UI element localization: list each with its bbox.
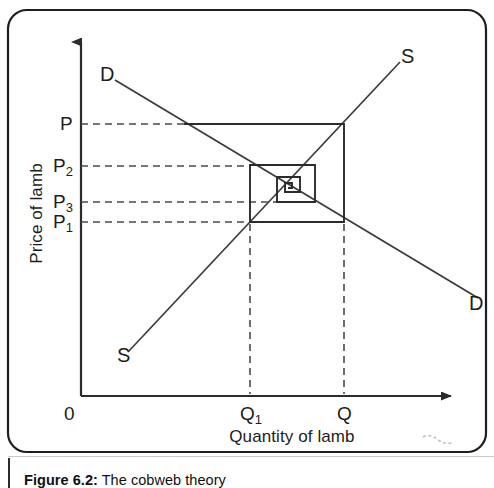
price-guide-lines [81, 124, 278, 222]
origin-label: 0 [64, 404, 75, 423]
y-tick-sub-P1: 1 [66, 220, 73, 235]
x-tick-base-Q: Q [337, 403, 352, 424]
y-axis-title: Price of lamb [28, 139, 45, 289]
curve-label-supply-upper: S [401, 46, 414, 66]
y-tick-label-P2: P2 [53, 156, 73, 175]
x-tick-sub-Q1: 1 [255, 412, 262, 427]
y-tick-label-P1: P1 [53, 212, 73, 231]
x-tick-label-Q1: Q1 [240, 404, 262, 423]
y-tick-label-P: P [60, 114, 73, 133]
caption-divider [8, 456, 494, 457]
x-tick-base-Q1: Q [240, 403, 255, 424]
y-tick-sub-P2: 2 [66, 164, 73, 179]
figure-caption-text: The cobweb theory [98, 472, 226, 488]
figure-container: Price of lamb Quantity of lamb 0 P P2 P3… [0, 0, 494, 488]
supply-curve [128, 62, 400, 352]
y-tick-base-P2: P [53, 155, 66, 176]
x-axis-title: Quantity of lamb [142, 428, 442, 445]
y-tick-base-P3: P [53, 191, 66, 212]
caption-side-bar [8, 458, 10, 488]
figure-caption: Figure 6.2: The cobweb theory [24, 472, 226, 488]
curve-label-supply-lower: S [117, 345, 130, 365]
y-tick-base-P1: P [53, 211, 66, 232]
x-tick-label-Q: Q [337, 404, 352, 423]
curve-label-demand-lower: D [469, 293, 483, 313]
y-tick-label-P3: P3 [53, 192, 73, 211]
demand-curve [115, 80, 478, 298]
scan-artifact-mark [421, 430, 455, 448]
curve-label-demand-upper: D [100, 64, 114, 84]
figure-caption-number: Figure 6.2: [24, 472, 98, 488]
figure-border [8, 10, 486, 452]
quantity-guide-lines [250, 224, 344, 394]
y-tick-base-P: P [60, 113, 73, 134]
